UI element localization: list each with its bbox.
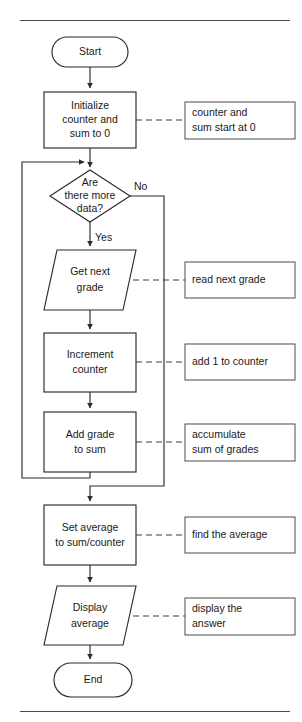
node-add-grade[interactable]: Add grade to sum xyxy=(44,412,136,472)
node-display-label-line1: Display xyxy=(73,601,108,613)
node-initialize-label-line3: sum to 0 xyxy=(70,127,110,139)
node-add-grade-label-line2: to sum xyxy=(74,443,106,455)
node-initialize-label-line1: Initialize xyxy=(71,99,109,111)
node-decision-label-line3: data? xyxy=(77,202,103,214)
annotation-display-note-line2: answer xyxy=(192,617,226,629)
node-start[interactable]: Start xyxy=(52,37,128,67)
annotation-set-average-note-line1: find the average xyxy=(192,528,267,540)
annotation-get-grade-note: read next grade xyxy=(185,262,295,298)
node-decision[interactable]: Are there more data? xyxy=(50,170,130,222)
node-start-label: Start xyxy=(79,45,101,57)
node-increment-label-line1: Increment xyxy=(67,348,114,360)
annotation-get-grade-note-line1: read next grade xyxy=(192,273,266,285)
node-display-label-line2: average xyxy=(71,617,109,629)
annotation-display-note: display the answer xyxy=(185,598,295,635)
annotation-add-grade-note: accumulate sum of grades xyxy=(185,424,295,461)
annotation-increment-note-line1: add 1 to counter xyxy=(192,355,268,367)
annotation-initialize-note: counter and sum start at 0 xyxy=(185,102,295,139)
node-set-average-label-line1: Set average xyxy=(62,521,119,533)
node-increment[interactable]: Increment counter xyxy=(44,333,136,392)
node-display[interactable]: Display average xyxy=(44,586,136,645)
annotation-initialize-note-line1: counter and xyxy=(192,106,248,118)
node-set-average-label-line2: to sum/counter xyxy=(55,536,125,548)
annotation-add-grade-note-line2: sum of grades xyxy=(192,443,259,455)
node-increment-label-line2: counter xyxy=(72,363,108,375)
node-end[interactable]: End xyxy=(54,663,132,697)
node-get-grade-label-line2: grade xyxy=(77,281,104,293)
annotation-add-grade-note-line1: accumulate xyxy=(192,428,246,440)
flowchart-page: Start Initialize counter and sum to 0 Ar… xyxy=(0,0,302,722)
node-initialize[interactable]: Initialize counter and sum to 0 xyxy=(44,92,136,148)
node-end-label: End xyxy=(84,673,103,685)
node-decision-label-line1: Are xyxy=(82,176,99,188)
annotation-increment-note: add 1 to counter xyxy=(185,344,295,380)
node-get-grade-label-line1: Get next xyxy=(70,265,110,277)
branch-label-no: No xyxy=(134,180,148,192)
annotation-set-average-note: find the average xyxy=(185,517,295,553)
node-initialize-label-line2: counter and xyxy=(62,113,118,125)
branch-label-yes: Yes xyxy=(95,231,112,243)
node-set-average[interactable]: Set average to sum/counter xyxy=(44,505,136,565)
node-add-grade-label-line1: Add grade xyxy=(66,428,115,440)
node-get-grade[interactable]: Get next grade xyxy=(44,250,136,310)
annotation-initialize-note-line2: sum start at 0 xyxy=(192,121,256,133)
annotation-display-note-line1: display the xyxy=(192,602,242,614)
node-decision-label-line2: there more xyxy=(65,189,116,201)
